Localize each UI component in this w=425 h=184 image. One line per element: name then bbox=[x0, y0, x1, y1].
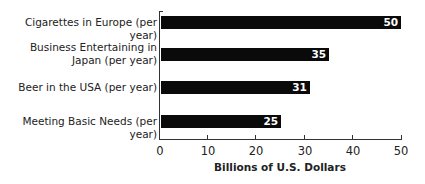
bar: 25 bbox=[161, 115, 281, 128]
x-tick-label: 30 bbox=[290, 144, 320, 158]
x-tick-label: 20 bbox=[241, 144, 271, 158]
x-axis-line bbox=[159, 139, 402, 140]
category-label: Meeting Basic Needs (per year) bbox=[0, 115, 157, 141]
x-axis-title: Billions of U.S. Dollars bbox=[200, 161, 360, 173]
bar-value-label: 31 bbox=[292, 81, 307, 94]
bar-value-label: 50 bbox=[383, 16, 398, 29]
y-axis-cap bbox=[159, 11, 163, 12]
category-label: Cigarettes in Europe (per year) bbox=[0, 16, 157, 42]
bar-value-label: 25 bbox=[263, 115, 278, 128]
x-tick bbox=[255, 135, 256, 139]
y-axis-line bbox=[159, 11, 160, 140]
x-tick-label: 10 bbox=[193, 144, 223, 158]
x-tick bbox=[159, 135, 160, 139]
x-tick bbox=[207, 135, 208, 139]
category-label: Beer in the USA (per year) bbox=[18, 81, 157, 94]
category-label: Business Entertaining in Japan (per year… bbox=[30, 41, 157, 67]
x-tick bbox=[352, 135, 353, 139]
bar-value-label: 35 bbox=[311, 48, 326, 61]
x-tick-label: 40 bbox=[338, 144, 368, 158]
x-tick-label: 0 bbox=[145, 144, 175, 158]
x-tick bbox=[401, 135, 402, 139]
x-tick bbox=[304, 135, 305, 139]
bar: 50 bbox=[161, 16, 401, 29]
bar: 35 bbox=[161, 48, 329, 61]
x-tick-label: 50 bbox=[386, 144, 416, 158]
bar: 31 bbox=[161, 81, 310, 94]
bar-chart: Cigarettes in Europe (per year) Business… bbox=[0, 0, 425, 184]
